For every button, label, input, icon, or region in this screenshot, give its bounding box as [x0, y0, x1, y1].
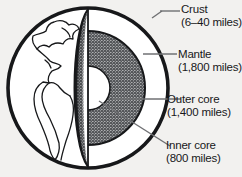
label-crust-name: Crust — [181, 3, 207, 15]
label-outer-core-name: Outer core — [167, 93, 219, 105]
label-inner-core-depth: (800 miles) — [166, 152, 221, 165]
label-mantle-depth: (1,800 miles) — [178, 61, 242, 74]
label-outer-core: Outer core (1,400 miles) — [167, 93, 231, 118]
label-inner-core: Inner core (800 miles) — [166, 139, 221, 164]
label-mantle: Mantle (1,800 miles) — [178, 48, 242, 73]
label-inner-core-name: Inner core — [166, 139, 216, 151]
label-crust: Crust (6–40 miles) — [181, 3, 242, 28]
label-crust-depth: (6–40 miles) — [181, 16, 242, 29]
label-mantle-name: Mantle — [178, 48, 211, 60]
label-outer-core-depth: (1,400 miles) — [167, 106, 231, 119]
